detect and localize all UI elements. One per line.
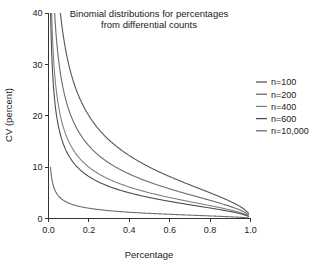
y-tick-label: 40 bbox=[32, 8, 42, 18]
x-tick-label: 0.0 bbox=[42, 225, 55, 235]
y-tick-label: 20 bbox=[32, 111, 42, 121]
y-tick-label: 0 bbox=[37, 214, 42, 224]
chart-title-line-1: Binomial distributions for percentages bbox=[70, 8, 229, 19]
x-tick-label: 0.6 bbox=[163, 225, 176, 235]
y-axis-ticks: 010203040 bbox=[32, 8, 48, 224]
x-tick-label: 1.0 bbox=[244, 225, 257, 235]
chart-title-line-2: from differential counts bbox=[101, 19, 197, 30]
series-line bbox=[49, 0, 249, 215]
y-tick-label: 30 bbox=[32, 60, 42, 70]
y-tick-label: 10 bbox=[32, 162, 42, 172]
axes: 010203040 0.00.20.40.60.81.0 bbox=[32, 8, 256, 234]
legend-item-label: n=100 bbox=[271, 77, 296, 87]
legend-item-label: n=600 bbox=[271, 114, 296, 124]
legend-item-label: n=10,000 bbox=[271, 126, 309, 136]
series-line bbox=[49, 0, 249, 216]
plot-area bbox=[49, 0, 249, 218]
chart-legend: n=100n=200n=400n=600n=10,000 bbox=[256, 77, 309, 136]
x-axis-title: Percentage bbox=[125, 249, 174, 260]
x-axis-ticks: 0.00.20.40.60.81.0 bbox=[42, 219, 257, 235]
x-tick-label: 0.8 bbox=[204, 225, 217, 235]
y-axis-title: CV (percent) bbox=[3, 88, 14, 142]
binomial-cv-line-chart: Binomial distributions for percentages f… bbox=[0, 0, 321, 268]
legend-item-label: n=400 bbox=[271, 102, 296, 112]
chart-title: Binomial distributions for percentages f… bbox=[70, 8, 229, 30]
series-line bbox=[49, 0, 249, 216]
chart-figure: Binomial distributions for percentages f… bbox=[0, 0, 321, 268]
x-tick-label: 0.4 bbox=[123, 225, 136, 235]
series-group bbox=[49, 0, 249, 218]
legend-item-label: n=200 bbox=[271, 90, 296, 100]
x-tick-label: 0.2 bbox=[83, 225, 96, 235]
